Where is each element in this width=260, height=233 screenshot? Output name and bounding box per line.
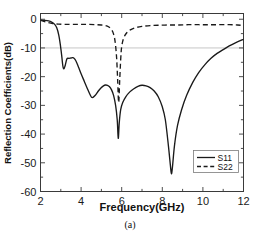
- y-axis-title: Reflection Coefficients(dB): [2, 42, 13, 164]
- figure-caption: (a): [124, 219, 135, 231]
- x-tick-label: 10: [197, 195, 209, 207]
- x-tick-label: 4: [78, 195, 84, 207]
- y-tick-label: -60: [21, 186, 37, 198]
- y-tick-label: -20: [21, 71, 37, 83]
- y-tick-label: -50: [21, 157, 37, 169]
- y-tick-label: -10: [21, 42, 37, 54]
- y-tick-label: -30: [21, 99, 37, 111]
- chart-legend[interactable]: S11 S22: [194, 151, 239, 173]
- x-tick-label: 12: [237, 195, 249, 207]
- x-axis-title: Frequency(GHz): [100, 201, 185, 213]
- reflection-coefficients-chart: 24681012 0-10-20-30-40-50-60 Frequency(G…: [0, 0, 260, 233]
- y-tick-label: -40: [21, 128, 37, 140]
- figure-panel: 24681012 0-10-20-30-40-50-60 Frequency(G…: [0, 0, 260, 233]
- y-tick-label: 0: [30, 13, 36, 25]
- x-tick-label: 2: [37, 195, 43, 207]
- legend-label-s22: S22: [218, 162, 233, 172]
